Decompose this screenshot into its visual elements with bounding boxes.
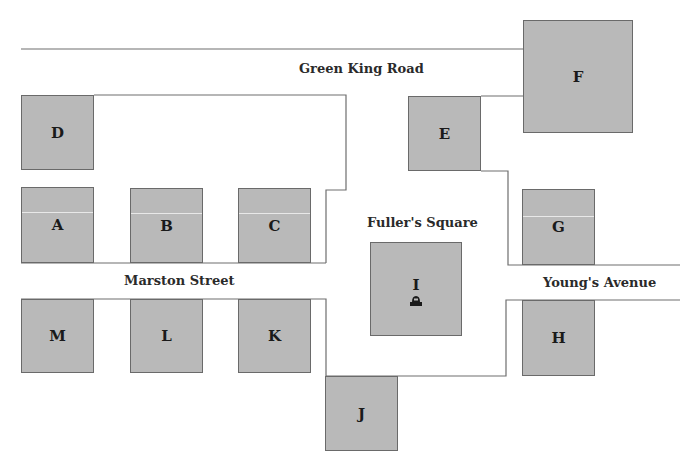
monument-icon bbox=[409, 295, 423, 307]
building-label: A bbox=[52, 216, 64, 234]
building-a[interactable]: A bbox=[21, 187, 94, 263]
building-i[interactable]: I bbox=[370, 242, 462, 336]
building-label: B bbox=[160, 217, 173, 235]
building-d[interactable]: D bbox=[21, 95, 94, 170]
building-h[interactable]: H bbox=[522, 300, 595, 376]
building-label: J bbox=[358, 405, 365, 423]
building-label: H bbox=[551, 329, 565, 347]
building-label: G bbox=[552, 218, 565, 236]
building-label: C bbox=[269, 217, 281, 235]
road-label-green-king-road: Green King Road bbox=[299, 61, 424, 76]
building-f[interactable]: F bbox=[523, 20, 633, 133]
building-e[interactable]: E bbox=[408, 96, 481, 171]
building-k[interactable]: K bbox=[238, 299, 311, 373]
building-label: E bbox=[439, 125, 450, 143]
building-j[interactable]: J bbox=[325, 376, 398, 451]
building-label: D bbox=[51, 124, 64, 142]
building-l[interactable]: L bbox=[130, 299, 203, 373]
building-b[interactable]: B bbox=[130, 188, 203, 263]
building-label: K bbox=[268, 327, 281, 345]
area-label-fullers-square: Fuller's Square bbox=[367, 215, 478, 230]
divider bbox=[239, 213, 310, 214]
divider bbox=[22, 212, 93, 213]
building-label: F bbox=[573, 68, 584, 86]
road-label-youngs-avenue: Young's Avenue bbox=[543, 275, 656, 290]
building-label: I bbox=[412, 276, 419, 294]
building-label: L bbox=[161, 327, 172, 345]
divider bbox=[523, 216, 594, 217]
road-label-marston-street: Marston Street bbox=[124, 273, 234, 288]
divider bbox=[131, 213, 202, 214]
building-m[interactable]: M bbox=[21, 299, 94, 373]
building-g[interactable]: G bbox=[522, 189, 595, 265]
building-c[interactable]: C bbox=[238, 188, 311, 263]
building-label: M bbox=[49, 327, 66, 345]
